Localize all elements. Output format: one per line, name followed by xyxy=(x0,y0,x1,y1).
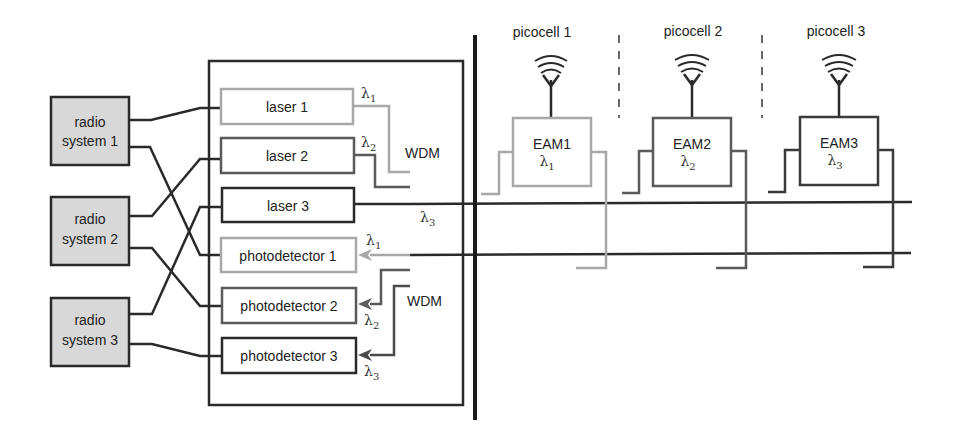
radio-over-fiber-diagram: radio system 1 radio system 2 radio syst… xyxy=(0,0,959,445)
laser-3: laser 3 xyxy=(222,188,354,222)
photodetector-3-wavelength: λ3 xyxy=(364,363,379,382)
picocell-3: picocell 3 EAM3 λ3 xyxy=(768,23,893,267)
laser-2-wavelength: λ2 xyxy=(361,134,376,153)
radio-system-2-label: radio xyxy=(74,211,105,227)
eam1-label: EAM1 xyxy=(533,136,571,152)
photodetector-1: photodetector 1 xyxy=(221,238,356,272)
antenna-icon xyxy=(822,55,856,117)
eam2-label: EAM2 xyxy=(673,136,711,152)
antenna-icon xyxy=(535,56,567,118)
laser-1-wavelength: λ1 xyxy=(361,85,376,104)
picocell-1: picocell 1 EAM1 λ1 xyxy=(481,24,606,268)
radio-system-1: radio system 1 xyxy=(51,97,129,165)
radio-system-3-label-2: system 3 xyxy=(62,332,118,348)
laser-1: laser 1 xyxy=(221,89,353,124)
photodetector-1-fiber xyxy=(358,249,410,261)
photodetector-2-fiber xyxy=(358,270,410,310)
radio-system-1-label: radio xyxy=(74,114,105,130)
photodetector-2-label: photodetector 2 xyxy=(240,298,338,314)
uplink-fiber xyxy=(410,253,911,255)
photodetector-3-label: photodetector 3 xyxy=(240,348,338,364)
radio-system-3-label: radio xyxy=(74,312,105,328)
radio-system-2-label-2: system 2 xyxy=(62,231,118,247)
photodetector-1-label: photodetector 1 xyxy=(239,248,337,264)
photodetector-2: photodetector 2 xyxy=(222,288,356,323)
picocell-1-label: picocell 1 xyxy=(513,24,572,40)
picocell-2: picocell 2 EAM2 λ2 xyxy=(622,23,746,268)
picocell-3-label: picocell 3 xyxy=(807,23,866,39)
radio-connections xyxy=(129,108,221,356)
laser-3-label: laser 3 xyxy=(267,198,309,214)
radio-system-3: radio system 3 xyxy=(51,298,129,366)
photodetector-1-wavelength: λ1 xyxy=(366,232,381,251)
antenna-icon xyxy=(675,55,709,118)
laser-1-label: laser 1 xyxy=(266,99,308,115)
radio-system-2: radio system 2 xyxy=(51,197,129,265)
laser-2-label: laser 2 xyxy=(266,148,308,164)
downlink-fiber xyxy=(410,202,912,204)
radio-system-1-label-2: system 1 xyxy=(62,133,118,149)
laser-2: laser 2 xyxy=(221,138,354,173)
laser-3-wavelength: λ3 xyxy=(420,209,435,228)
eam3-label: EAM3 xyxy=(820,135,858,151)
photodetector-2-wavelength: λ2 xyxy=(364,312,379,331)
wdm-top-label: WDM xyxy=(405,145,440,161)
wdm-bottom-label: WDM xyxy=(407,293,442,309)
picocell-2-label: picocell 2 xyxy=(664,23,723,39)
photodetector-3: photodetector 3 xyxy=(222,338,356,373)
